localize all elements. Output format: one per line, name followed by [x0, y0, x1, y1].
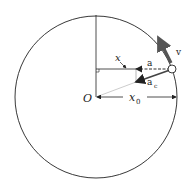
v-vector — [160, 41, 171, 63]
label-x0: x — [129, 91, 136, 104]
right-angle-mark — [96, 69, 99, 72]
x-pointer — [120, 62, 126, 68]
label-O: O — [83, 92, 92, 105]
circular-motion-diagram: O x a a c v x 0 — [0, 0, 187, 189]
label-x0-sub: 0 — [136, 98, 140, 106]
particle — [168, 65, 176, 73]
label-ac-sub: c — [154, 82, 158, 89]
label-v: v — [175, 47, 182, 57]
label-a: a — [147, 58, 153, 68]
label-x: x — [115, 52, 121, 63]
ac-vector — [136, 70, 170, 82]
label-ac: a — [147, 77, 153, 87]
